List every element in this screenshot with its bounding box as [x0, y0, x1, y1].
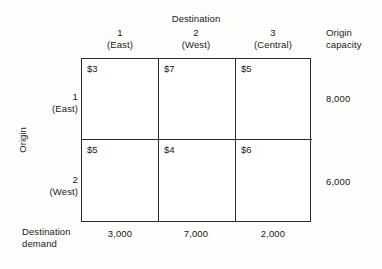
column-header-1: 1 (East) [107, 27, 133, 51]
column-header-3-number: 3 [254, 27, 292, 39]
destination-demand-label: Destination demand [22, 226, 71, 250]
row-header-2-name: (West) [50, 186, 78, 198]
unit-cost-r2c3: $6 [241, 144, 252, 156]
destination-demand-value-2: 7,000 [184, 228, 208, 240]
unit-cost-r1c2: $7 [164, 63, 175, 75]
column-header-2: 2 (West) [182, 27, 210, 51]
column-header-3-name: (Central) [254, 39, 292, 51]
unit-cost-r2c2: $4 [164, 144, 175, 156]
matrix-cell-r1c1: $3 [82, 59, 159, 140]
origin-capacity-header-line1: Origin [326, 27, 362, 39]
column-header-1-name: (East) [107, 39, 133, 51]
cost-matrix-grid: $3 $7 $5 $5 $4 $6 [81, 58, 311, 222]
column-header-3: 3 (Central) [254, 27, 292, 51]
row-header-2-number: 2 [50, 174, 78, 186]
origin-axis-title: Origin [17, 127, 28, 152]
destination-demand-label-line2: demand [22, 238, 71, 250]
origin-capacity-header: Origin capacity [326, 27, 362, 51]
row-header-1: 1 (East) [52, 91, 78, 115]
origin-capacity-value-1: 8,000 [326, 93, 350, 105]
destination-demand-value-3: 2,000 [261, 228, 285, 240]
column-header-2-number: 2 [182, 27, 210, 39]
origin-capacity-header-line2: capacity [326, 39, 362, 51]
matrix-cell-r2c2: $4 [159, 140, 236, 221]
column-header-2-name: (West) [182, 39, 210, 51]
destination-demand-value-1: 3,000 [108, 228, 132, 240]
transportation-matrix-figure: Destination 1 (East) 2 (West) 3 (Central… [0, 0, 382, 269]
matrix-cell-r1c3: $5 [236, 59, 312, 140]
unit-cost-r1c3: $5 [241, 63, 252, 75]
row-header-1-number: 1 [52, 91, 78, 103]
destination-demand-label-line1: Destination [22, 226, 71, 238]
matrix-cell-r2c1: $5 [82, 140, 159, 221]
matrix-cell-r1c2: $7 [159, 59, 236, 140]
row-header-2: 2 (West) [50, 174, 78, 198]
unit-cost-r2c1: $5 [87, 144, 98, 156]
matrix-cell-r2c3: $6 [236, 140, 312, 221]
unit-cost-r1c1: $3 [87, 63, 98, 75]
origin-capacity-value-2: 6,000 [326, 176, 350, 188]
destination-axis-title: Destination [172, 13, 221, 25]
row-header-1-name: (East) [52, 103, 78, 115]
column-header-1-number: 1 [107, 27, 133, 39]
